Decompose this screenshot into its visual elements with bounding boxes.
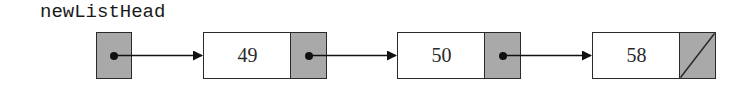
linked-list-diagram: newListHead 49 50 58 bbox=[0, 0, 752, 90]
link-arrows bbox=[0, 0, 752, 90]
